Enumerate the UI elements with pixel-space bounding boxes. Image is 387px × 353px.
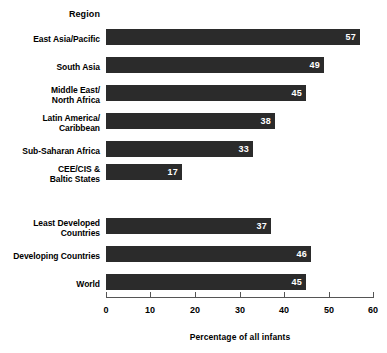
category-label-line1: World xyxy=(76,279,100,289)
category-label-sub-saharan-africa: Sub-Saharan Africa xyxy=(0,146,100,156)
category-label-line2: North Africa xyxy=(0,95,100,105)
bar-value-sub-saharan-africa: 33 xyxy=(239,144,249,154)
category-label-line1: CEE/CIS & xyxy=(58,164,100,174)
bar-south-asia: 49 xyxy=(106,57,324,73)
category-label-latin-america-caribbean: Latin America/ Caribbean xyxy=(0,113,100,133)
region-column-header: Region xyxy=(0,9,100,19)
bar-least-developed-countries: 37 xyxy=(106,218,271,234)
bar-east-asia-pacific: 57 xyxy=(106,29,360,45)
bar-sub-saharan-africa: 33 xyxy=(106,141,253,157)
bar-cee-cis-baltic-states: 17 xyxy=(106,164,182,180)
category-label-line1: Sub-Saharan Africa xyxy=(22,146,100,156)
x-axis-tick-50 xyxy=(329,292,330,297)
bar-middle-east-north-africa: 45 xyxy=(106,85,306,101)
x-axis-label-60: 60 xyxy=(358,305,387,315)
category-label-line1: East Asia/Pacific xyxy=(33,34,100,44)
category-label-line1: Latin America/ xyxy=(42,113,100,123)
bar-value-east-asia-pacific: 57 xyxy=(346,32,356,42)
x-axis-line xyxy=(106,297,374,298)
x-axis-tick-30 xyxy=(240,292,241,297)
category-label-line2: Countries xyxy=(0,228,100,238)
bar-value-world: 45 xyxy=(292,277,302,287)
x-axis-tick-40 xyxy=(284,292,285,297)
x-axis-label-50: 50 xyxy=(314,305,344,315)
x-axis-label-0: 0 xyxy=(91,305,121,315)
x-axis-label-10: 10 xyxy=(135,305,165,315)
category-label-line1: Middle East/ xyxy=(51,85,100,95)
bar-latin-america-caribbean: 38 xyxy=(106,113,275,129)
category-label-line1: Developing Countries xyxy=(13,251,100,261)
category-label-developing-countries: Developing Countries xyxy=(0,251,100,261)
bar-value-middle-east-north-africa: 45 xyxy=(292,88,302,98)
bar-chart: Region East Asia/Pacific 57 South Asia 4… xyxy=(0,0,387,353)
category-label-line1: Least Developed xyxy=(33,218,100,228)
x-axis-tick-60 xyxy=(373,292,374,297)
x-axis-label-40: 40 xyxy=(269,305,299,315)
category-label-line1: South Asia xyxy=(56,62,100,72)
bar-value-latin-america-caribbean: 38 xyxy=(261,116,271,126)
category-label-line2: Caribbean xyxy=(0,123,100,133)
x-axis-tick-10 xyxy=(150,292,151,297)
category-label-least-developed-countries: Least Developed Countries xyxy=(0,218,100,238)
category-label-cee-cis-baltic-states: CEE/CIS & Baltic States xyxy=(0,164,100,184)
category-label-middle-east-north-africa: Middle East/ North Africa xyxy=(0,85,100,105)
x-axis-label-20: 20 xyxy=(180,305,210,315)
x-axis-label-30: 30 xyxy=(225,305,255,315)
category-label-world: World xyxy=(0,279,100,289)
x-axis-title: Percentage of all infants xyxy=(106,332,374,342)
bar-value-south-asia: 49 xyxy=(310,60,320,70)
category-label-line2: Baltic States xyxy=(0,174,100,184)
bar-value-least-developed-countries: 37 xyxy=(257,221,267,231)
bar-value-cee-cis-baltic-states: 17 xyxy=(168,167,178,177)
bar-world: 45 xyxy=(106,274,306,290)
bar-developing-countries: 46 xyxy=(106,246,311,262)
x-axis-tick-0 xyxy=(106,292,107,297)
x-axis-tick-20 xyxy=(195,292,196,297)
category-label-east-asia-pacific: East Asia/Pacific xyxy=(0,34,100,44)
bar-value-developing-countries: 46 xyxy=(297,249,307,259)
category-label-south-asia: South Asia xyxy=(0,62,100,72)
